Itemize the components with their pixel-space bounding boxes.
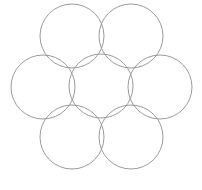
circles-diagram: center circletop left circletop right ci… — [0, 0, 202, 190]
diagram-background — [0, 0, 202, 190]
figure-canvas: center circletop left circletop right ci… — [0, 0, 202, 190]
